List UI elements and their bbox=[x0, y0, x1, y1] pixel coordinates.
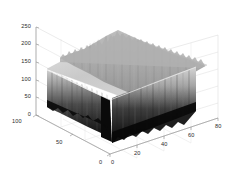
figure-window: 250 200 150 100 50 0 100 50 0 0 20 40 60… bbox=[0, 0, 231, 179]
x-tick-label-0: 0 bbox=[111, 160, 114, 166]
z-tick-label-50: 50 bbox=[13, 94, 31, 100]
z-axis-ticks bbox=[36, 27, 39, 116]
z-tick-label-250: 250 bbox=[13, 24, 31, 30]
y-tick-label-50: 50 bbox=[56, 140, 62, 146]
surface-mesh bbox=[47, 28, 207, 150]
z-tick-label-200: 200 bbox=[13, 41, 31, 47]
y-tick-label-100: 100 bbox=[12, 119, 22, 125]
surface-plot-canvas bbox=[0, 0, 231, 179]
z-tick-label-150: 150 bbox=[13, 59, 31, 65]
x-tick-label-60: 60 bbox=[188, 133, 194, 139]
z-tick-label-100: 100 bbox=[13, 77, 31, 83]
x-tick-label-40: 40 bbox=[161, 142, 167, 148]
x-tick-label-80: 80 bbox=[215, 124, 221, 130]
z-tick-label-0: 0 bbox=[13, 112, 31, 118]
plateau-noise-crest bbox=[60, 31, 205, 68]
x-tick-label-20: 20 bbox=[134, 151, 140, 157]
y-tick-label-0: 0 bbox=[99, 160, 102, 166]
surface-front-notch bbox=[101, 96, 112, 142]
